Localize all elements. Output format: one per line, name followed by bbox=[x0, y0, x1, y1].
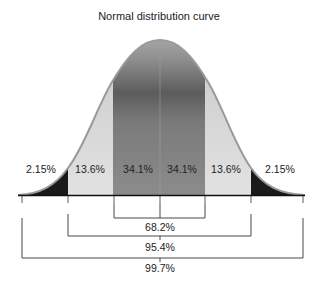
band-label-right-tail: 2.15% bbox=[265, 163, 295, 175]
bracket-label-95: 95.4% bbox=[144, 241, 176, 253]
bracket-label-68: 68.2% bbox=[144, 221, 176, 233]
band-label-right-13: 13.6% bbox=[211, 163, 241, 175]
band-label-right-34: 34.1% bbox=[167, 163, 197, 175]
band-label-left-tail: 2.15% bbox=[26, 163, 56, 175]
bracket-label-99: 99.7% bbox=[144, 262, 176, 274]
sigma-ticks bbox=[22, 196, 303, 203]
band-label-left-13: 13.6% bbox=[75, 163, 105, 175]
bracket-68 bbox=[114, 203, 205, 218]
band-label-left-34: 34.1% bbox=[123, 163, 153, 175]
